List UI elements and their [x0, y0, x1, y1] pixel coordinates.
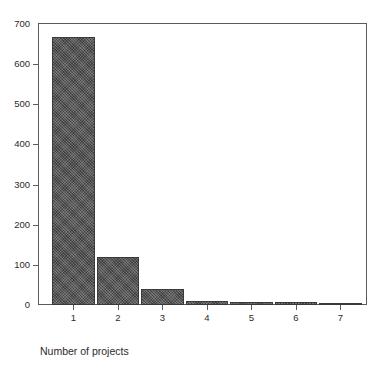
y-axis-tick-mark: [33, 225, 38, 226]
x-axis-tick-mark: [340, 305, 341, 310]
x-axis-title: Number of projects: [40, 344, 129, 358]
bar: [52, 37, 94, 305]
x-axis-tick-label: 1: [71, 312, 76, 324]
y-axis-tick-label: 700: [14, 19, 30, 29]
y-axis-tick-label: 0: [25, 300, 30, 310]
x-axis-tick-labels: 1234567: [39, 312, 366, 326]
y-axis-tick-mark: [33, 265, 38, 266]
x-axis-tick-mark: [296, 305, 297, 310]
x-axis-tick-label: 5: [249, 312, 254, 324]
y-axis-tick-label: 200: [14, 220, 30, 230]
y-axis-tick-mark: [33, 104, 38, 105]
bar-chart-figure: 0100200300400500600700 1234567 Number of…: [0, 0, 388, 378]
x-axis-tick-marks: [39, 305, 366, 311]
x-axis-tick-mark: [251, 305, 252, 310]
bar: [141, 289, 183, 305]
clipped-chart-title: [60, 0, 340, 10]
x-axis-tick-mark: [73, 305, 74, 310]
y-axis-tick-label: 400: [14, 139, 30, 149]
x-axis-tick-label: 6: [293, 312, 298, 324]
y-axis-tick-label: 600: [14, 59, 30, 69]
x-axis-tick-mark: [207, 305, 208, 310]
y-axis-tick-label: 300: [14, 180, 30, 190]
y-axis-tick-label: 100: [14, 260, 30, 270]
x-axis-tick-label: 4: [204, 312, 209, 324]
y-axis-tick-mark: [33, 185, 38, 186]
x-axis-tick-label: 3: [160, 312, 165, 324]
x-axis-tick-mark: [118, 305, 119, 310]
y-axis-tick-mark: [33, 144, 38, 145]
bars-layer: [39, 24, 366, 305]
x-axis-tick-mark: [162, 305, 163, 310]
bar: [97, 257, 139, 305]
y-axis: 0100200300400500600700: [0, 0, 38, 378]
x-axis-tick-label: 2: [115, 312, 120, 324]
y-axis-tick-label: 500: [14, 99, 30, 109]
x-axis-tick-label: 7: [338, 312, 343, 324]
y-axis-tick-mark: [33, 64, 38, 65]
